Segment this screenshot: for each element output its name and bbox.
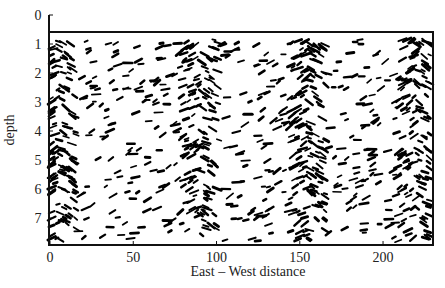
y-tick-label: 0 xyxy=(35,8,42,23)
x-axis-label: East – West distance xyxy=(191,264,306,279)
y-tick-label: 6 xyxy=(35,182,42,197)
x-tick-label: 0 xyxy=(47,250,54,265)
plot-frame xyxy=(49,32,433,245)
y-axis-label: depth xyxy=(2,114,17,145)
x-tick-label: 50 xyxy=(126,250,140,265)
x-tick-label: 100 xyxy=(206,250,227,265)
y-tick-label: 4 xyxy=(35,124,42,139)
x-tick-label: 200 xyxy=(373,250,394,265)
y-tick-label: 3 xyxy=(35,95,42,110)
y-tick-label: 2 xyxy=(35,66,42,81)
x-tick-label: 150 xyxy=(289,250,310,265)
depth-vs-distance-chart: 01234567 050100150200 East – West distan… xyxy=(0,0,445,288)
dash-field xyxy=(48,38,434,242)
y-tick-label: 1 xyxy=(35,37,42,52)
y-tick-label: 5 xyxy=(35,153,42,168)
y-tick-label: 7 xyxy=(35,211,42,226)
